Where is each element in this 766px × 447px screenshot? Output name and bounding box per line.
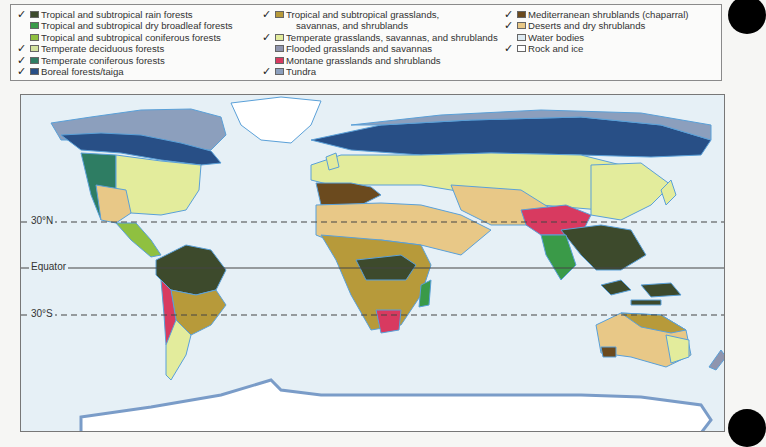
- legend-item: Montane grasslands and shrublands: [256, 55, 498, 66]
- check-icon: ✓: [504, 43, 513, 54]
- check-icon: ✓: [504, 20, 513, 31]
- legend-item: Tropical and subtropical dry broadleaf f…: [11, 20, 233, 31]
- check-icon: ✓: [17, 43, 26, 54]
- legend-column-2: ✓Tropical and subtropical grasslands,sav…: [256, 9, 498, 77]
- legend-label: Tundra: [286, 66, 316, 77]
- legend-item: ✓Tropical and subtropical rain forests: [11, 9, 233, 20]
- legend-item: ✓Mediterranean shrublands (chaparral): [498, 9, 689, 20]
- world-biome-map: 30°N Equator 30°S: [20, 94, 725, 432]
- legend-swatch: [30, 57, 39, 64]
- legend-label: Rock and ice: [528, 43, 583, 54]
- legend-item: ✓Tropical and subtropical grasslands,: [256, 9, 498, 20]
- legend-item: Flooded grasslands and savannas: [256, 43, 498, 54]
- legend-label: Temperate coniferous forests: [41, 55, 165, 66]
- legend-item: ✓Temperate coniferous forests: [11, 55, 233, 66]
- check-icon: ✓: [17, 9, 26, 20]
- legend-label: Montane grasslands and shrublands: [286, 55, 441, 66]
- legend-swatch: [30, 45, 39, 52]
- legend-label: Mediterranean shrublands (chaparral): [528, 9, 689, 20]
- latitude-label-30s: 30°S: [29, 308, 55, 319]
- legend-label: Tropical and subtropical dry broadleaf f…: [41, 20, 233, 31]
- legend-item: Water bodies: [498, 32, 689, 43]
- legend-item: ✓Tundra: [256, 66, 498, 77]
- world-map-graphic: [21, 95, 725, 432]
- legend-swatch: [517, 11, 526, 18]
- check-icon: ✓: [262, 32, 271, 43]
- legend-column-1: ✓Tropical and subtropical rain forestsTr…: [11, 9, 233, 77]
- legend-column-3: ✓Mediterranean shrublands (chaparral)✓De…: [498, 9, 689, 55]
- legend-swatch: [275, 11, 284, 18]
- legend-swatch: [517, 34, 526, 41]
- legend-item: ✓Boreal forests/taiga: [11, 66, 233, 77]
- legend-label: Temperate grasslands, savannas, and shru…: [286, 32, 498, 43]
- page-marker-dot-top: [728, 0, 766, 34]
- legend-label: Deserts and dry shrublands: [528, 20, 645, 31]
- check-icon: ✓: [262, 66, 271, 77]
- legend-label: Tropical and subtropical rain forests: [41, 9, 193, 20]
- legend-swatch: [30, 68, 39, 75]
- legend-swatch: [275, 57, 284, 64]
- check-icon: ✓: [262, 9, 271, 20]
- legend-item: ✓Temperate deciduous forests: [11, 43, 233, 54]
- continents: [51, 97, 725, 432]
- legend-item: ✓Rock and ice: [498, 43, 689, 54]
- legend-item: ✓Deserts and dry shrublands: [498, 20, 689, 31]
- legend-label: Temperate deciduous forests: [41, 43, 164, 54]
- legend-label: Flooded grasslands and savannas: [286, 43, 432, 54]
- biome-legend: ✓Tropical and subtropical rain forestsTr…: [10, 4, 722, 81]
- legend-swatch: [275, 34, 284, 41]
- legend-swatch: [275, 68, 284, 75]
- legend-label: Tropical and subtropical coniferous fore…: [41, 32, 221, 43]
- legend-swatch: [517, 22, 526, 29]
- legend-item: ✓Temperate grasslands, savannas, and shr…: [256, 32, 498, 43]
- legend-label: Boreal forests/taiga: [41, 66, 124, 77]
- legend-label: Tropical and subtropical grasslands,: [286, 9, 439, 20]
- legend-label-continuation: savannas, and shrublands: [256, 20, 498, 31]
- page-marker-dot-bottom: [728, 409, 766, 447]
- legend-label: Water bodies: [528, 32, 584, 43]
- legend-item: Tropical and subtropical coniferous fore…: [11, 32, 233, 43]
- latitude-label-30n: 30°N: [29, 215, 55, 226]
- legend-swatch: [517, 45, 526, 52]
- legend-swatch: [30, 34, 39, 41]
- check-icon: ✓: [17, 66, 26, 77]
- legend-swatch: [30, 11, 39, 18]
- legend-swatch: [275, 45, 284, 52]
- legend-swatch: [30, 22, 39, 29]
- latitude-label-equator: Equator: [29, 261, 68, 272]
